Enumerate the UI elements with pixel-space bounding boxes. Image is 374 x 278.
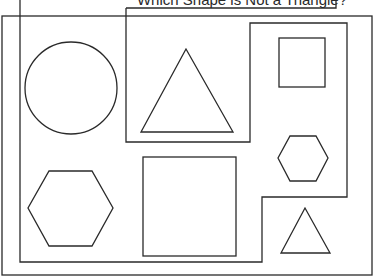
title-label: Which Shape is Not a Triangle?	[137, 0, 347, 8]
large-hexagon-shape	[28, 171, 113, 246]
small-hexagon-shape	[278, 136, 328, 181]
small-square-shape	[279, 38, 325, 87]
outer-frame	[2, 16, 372, 275]
shape-diagram: Which Shape is Not a Triangle?	[0, 0, 374, 278]
small-triangle-shape	[281, 208, 330, 253]
large-triangle-shape	[141, 49, 233, 132]
circle-shape	[25, 42, 117, 134]
large-square-shape	[143, 157, 236, 256]
inner-region	[20, 8, 347, 262]
